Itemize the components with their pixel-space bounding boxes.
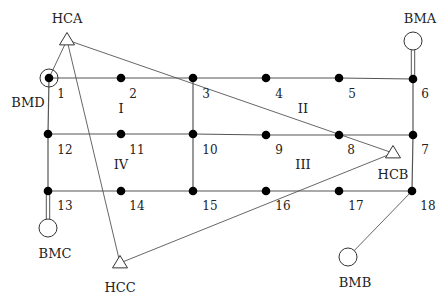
node-label: 14: [129, 200, 144, 212]
grid-node: [44, 130, 53, 139]
grid-edge: [412, 135, 413, 191]
hub-triangle-icon: [113, 256, 128, 268]
grid-node: [189, 130, 198, 139]
node-label: 7: [421, 144, 429, 156]
hub-label: HCA: [52, 12, 83, 25]
base-label: BMB: [339, 276, 371, 289]
grid-node: [262, 131, 271, 140]
grid-node: [408, 187, 417, 196]
region-label: I: [118, 102, 123, 115]
grid-edge: [339, 78, 413, 79]
node-label: 6: [421, 88, 429, 100]
grid-node: [189, 74, 198, 83]
hub-label: HCC: [104, 281, 135, 294]
node-label: 8: [347, 144, 355, 156]
region-label: IV: [114, 158, 129, 171]
node-label: 9: [275, 144, 283, 156]
grid-node: [117, 187, 126, 196]
base-circle-icon: [404, 32, 422, 50]
node-label: 13: [57, 200, 72, 212]
bases: [39, 32, 422, 266]
node-label: 18: [420, 200, 435, 212]
base-circle-icon: [339, 248, 357, 266]
grid-edges: [48, 78, 413, 191]
grid-node: [262, 74, 271, 83]
base-circle-icon: [39, 219, 57, 237]
grid-edge: [48, 78, 49, 134]
hub-link: [67, 40, 120, 263]
hub-link: [67, 40, 393, 153]
grid-node: [409, 131, 418, 140]
node-label: 1: [57, 88, 65, 100]
hub-triangle-icon: [60, 33, 75, 45]
node-label: 3: [202, 88, 210, 100]
node-label: 5: [348, 88, 356, 100]
base-connectors: [46, 50, 414, 257]
grid-node: [117, 74, 126, 83]
grid-edge: [193, 134, 266, 135]
grid-node: [117, 130, 126, 139]
node-label: 2: [129, 88, 137, 100]
node-label: 11: [129, 144, 144, 156]
node-label: 17: [348, 200, 363, 212]
grid-node: [335, 187, 344, 196]
region-label: III: [295, 158, 310, 171]
grid-node: [262, 187, 271, 196]
region-label: II: [298, 102, 308, 115]
hub-label: HCB: [378, 168, 409, 181]
grid-node: [409, 75, 418, 84]
node-label: 10: [202, 144, 217, 156]
node-label: 4: [275, 88, 283, 100]
grid-node: [335, 74, 344, 83]
node-label: 15: [202, 200, 217, 212]
base-label: BMA: [404, 12, 436, 25]
grid-node: [189, 187, 198, 196]
grid-node: [335, 131, 344, 140]
hub-triangle-icon: [386, 146, 401, 158]
node-label: 12: [57, 144, 72, 156]
grid-node: [44, 187, 53, 196]
base-label: BMC: [39, 247, 72, 260]
grid-node: [45, 74, 54, 83]
base-label: BMD: [11, 96, 44, 109]
hub-links: [49, 40, 393, 263]
node-label: 16: [275, 200, 290, 212]
hub-link: [49, 40, 67, 78]
